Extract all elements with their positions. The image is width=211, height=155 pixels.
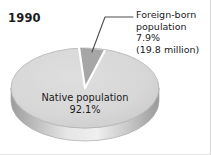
callout-leader-line [92,17,133,52]
callout-text-block: Foreign-born population 7.9% (19.8 milli… [136,9,210,55]
pie-chart-figure: 1990 Foreign-born population 7.9% (19.8 … [0,0,211,155]
callout-line-1: Foreign-born [136,9,210,21]
native-population-name: Native population [42,92,129,103]
callout-percent-value: 7.9% [136,32,210,44]
callout-line-2: population [136,21,210,33]
callout-absolute-value: (19.8 million) [136,44,210,56]
year-label: 1990 [8,11,41,25]
native-population-percent: 92.1% [14,104,156,116]
native-population-label: Native population 92.1% [14,92,156,116]
